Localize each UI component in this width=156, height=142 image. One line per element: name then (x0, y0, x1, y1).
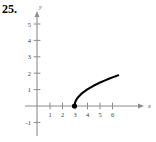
y-axis-arrow-icon (35, 11, 40, 17)
graph-plot: y x 1 2 3 4 5 6 5 4 3 2 (0, 0, 156, 142)
x-axis-label: x (147, 103, 151, 109)
figure-container: 25. y x 1 2 3 4 5 6 (0, 0, 156, 142)
x-axis-arrow-icon (138, 104, 144, 109)
y-tick-label-neg1: -1 (26, 119, 31, 126)
x-tick-label-1: 1 (48, 111, 51, 118)
y-axis-label: y (38, 4, 42, 10)
y-tick-label-5: 5 (28, 21, 31, 28)
y-tick-label-4: 4 (28, 37, 32, 44)
y-tick-label-1: 1 (28, 86, 31, 93)
x-tick-label-3: 3 (73, 111, 76, 118)
x-tick-label-5: 5 (98, 111, 101, 118)
x-tick-label-4: 4 (86, 111, 90, 118)
y-tick-label-2: 2 (28, 70, 31, 77)
y-tick-label-3: 3 (28, 53, 31, 60)
function-curve (75, 75, 119, 106)
x-tick-label-6: 6 (111, 111, 115, 118)
x-tick-label-2: 2 (61, 111, 64, 118)
endpoint-dot-marker (72, 103, 77, 108)
